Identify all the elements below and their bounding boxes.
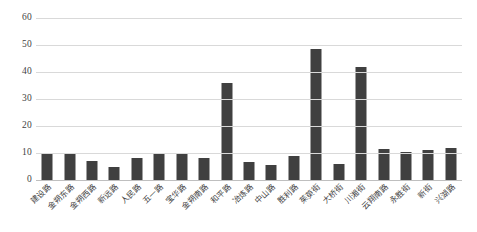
bar[interactable]: [154, 153, 165, 180]
gridline-30: [36, 99, 462, 100]
gridline-40: [36, 72, 462, 73]
gridline-10: [36, 153, 462, 154]
y-tick-label-0: 0: [4, 175, 32, 185]
x-label-slot: 兴湖路: [440, 181, 462, 232]
y-tick-label-50: 50: [4, 40, 32, 50]
bar[interactable]: [288, 156, 299, 180]
x-label-slot: 云翔南路: [372, 181, 394, 232]
y-tick-label-30: 30: [4, 94, 32, 104]
y-tick-label-10: 10: [4, 148, 32, 158]
bar[interactable]: [42, 153, 53, 180]
bar[interactable]: [311, 49, 322, 180]
x-label-slot: 人民路: [126, 181, 148, 232]
bar[interactable]: [400, 152, 411, 180]
bar[interactable]: [333, 164, 344, 180]
plot-area: [36, 18, 462, 180]
bar[interactable]: [87, 161, 98, 180]
x-label-slot: 新远路: [103, 181, 125, 232]
bar[interactable]: [356, 67, 367, 180]
x-label-slot: 金朔西路: [81, 181, 103, 232]
y-axis: 0102030405060: [0, 18, 32, 180]
x-label-slot: 大桥街: [327, 181, 349, 232]
bar[interactable]: [221, 83, 232, 180]
gridline-20: [36, 126, 462, 127]
gridline-50: [36, 45, 462, 46]
bar[interactable]: [131, 158, 142, 180]
x-tick-label: 新街: [417, 183, 434, 200]
x-label-slot: 和平路: [215, 181, 237, 232]
bar-chart: 0102030405060 建设路金朔东路金朔西路新远路人民路五一路宝华路金朔南…: [0, 0, 477, 232]
y-tick-label-20: 20: [4, 121, 32, 131]
bar[interactable]: [176, 153, 187, 180]
x-label-slot: 五一路: [148, 181, 170, 232]
x-label-slot: 金朔南路: [193, 181, 215, 232]
x-label-slot: 冶炼路: [238, 181, 260, 232]
y-tick-label-40: 40: [4, 67, 32, 77]
x-label-slot: 新街: [417, 181, 439, 232]
bar[interactable]: [243, 162, 254, 180]
bar[interactable]: [64, 154, 75, 180]
x-label-slot: 胜利路: [283, 181, 305, 232]
x-label-slot: 中山路: [260, 181, 282, 232]
bar[interactable]: [266, 165, 277, 180]
bar[interactable]: [109, 167, 120, 181]
y-tick-label-60: 60: [4, 13, 32, 23]
x-label-slot: 永胜街: [395, 181, 417, 232]
x-label-slot: 茱萸街: [305, 181, 327, 232]
bar[interactable]: [199, 158, 210, 180]
gridline-60: [36, 18, 462, 19]
x-axis: 建设路金朔东路金朔西路新远路人民路五一路宝华路金朔南路和平路冶炼路中山路胜利路茱…: [36, 181, 462, 232]
bar[interactable]: [423, 150, 434, 180]
